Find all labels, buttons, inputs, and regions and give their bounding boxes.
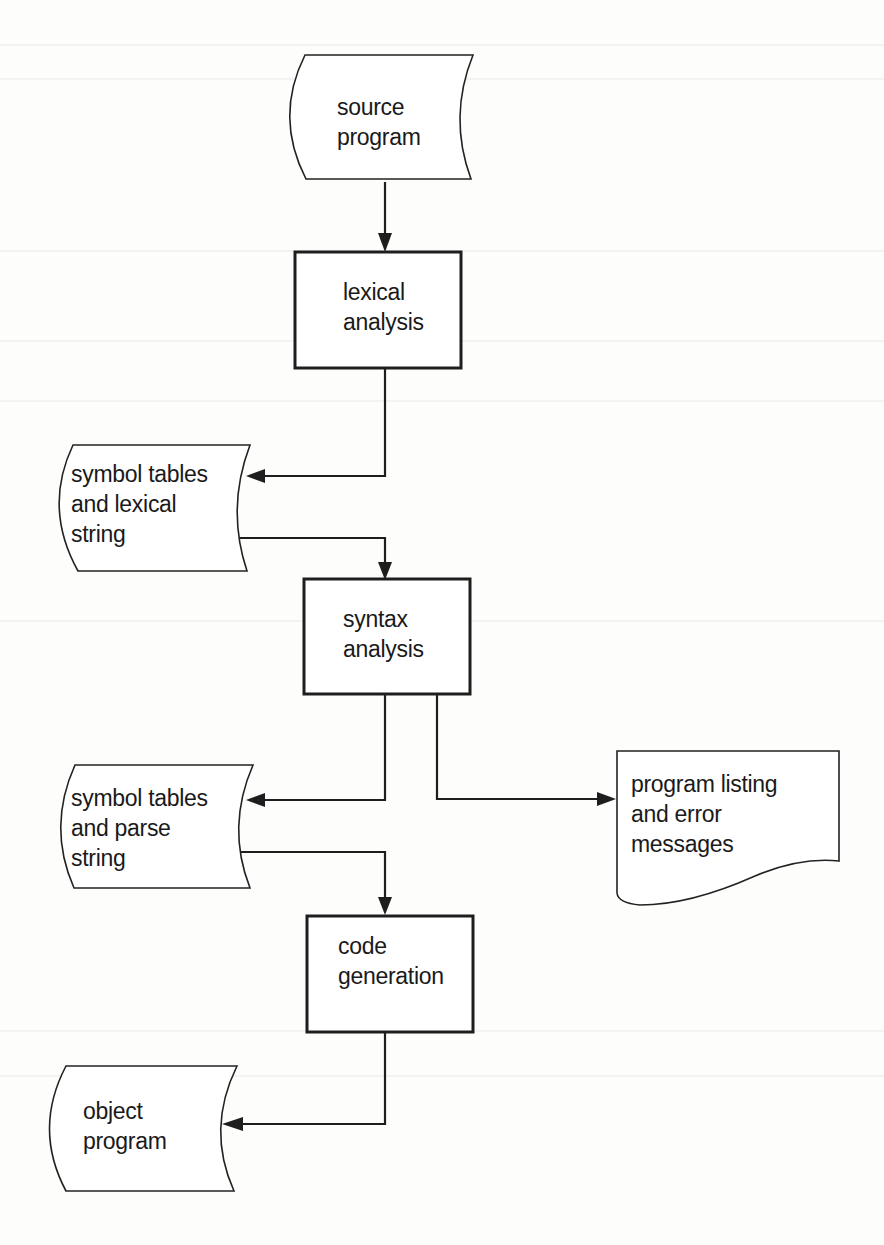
node-label: symbol tables — [71, 785, 208, 811]
node-code-generation: code generation — [307, 916, 473, 1032]
node-label: source — [337, 94, 404, 120]
node-program-listing: program listing and error messages — [617, 751, 839, 905]
node-symbol-tables-parse: symbol tables and parse string — [61, 765, 253, 888]
arrow-down-icon — [378, 233, 392, 252]
arrow-down-icon — [378, 897, 392, 915]
arrow-left-icon — [222, 1117, 243, 1131]
node-label: and error — [631, 801, 722, 827]
node-label: program — [337, 124, 421, 150]
node-label: string — [71, 521, 125, 547]
arrow-left-icon — [246, 793, 265, 807]
node-label: program — [83, 1128, 167, 1154]
node-label: code — [338, 933, 387, 959]
edge-syntax-to-symbol-tables-parse — [246, 694, 385, 807]
node-label: string — [71, 845, 125, 871]
edge-source-to-lexical — [378, 182, 392, 252]
compiler-flowchart: source program lexical analysis symbol t… — [0, 0, 884, 1245]
node-lexical-analysis: lexical analysis — [295, 252, 461, 368]
node-label: object — [83, 1098, 143, 1124]
node-label: lexical — [343, 279, 405, 305]
node-label: messages — [631, 831, 733, 857]
edge-lexical-to-symbol-tables-lexical — [246, 369, 385, 483]
edge-symbol-tables-lexical-to-syntax — [236, 538, 392, 580]
node-source-program: source program — [290, 55, 473, 179]
node-label: and lexical — [71, 491, 176, 517]
arrow-left-icon — [246, 469, 265, 483]
node-label: analysis — [343, 636, 424, 662]
node-syntax-analysis: syntax analysis — [304, 579, 470, 694]
node-symbol-tables-lexical: symbol tables and lexical string — [59, 445, 250, 571]
node-label: analysis — [343, 309, 424, 335]
edge-code-generation-to-object-program — [222, 1033, 385, 1131]
node-label: generation — [338, 963, 444, 989]
arrow-down-icon — [378, 562, 392, 580]
node-label: and parse — [71, 815, 171, 841]
edge-symbol-tables-parse-to-code-generation — [240, 852, 392, 915]
node-object-program: object program — [50, 1066, 238, 1191]
node-label: symbol tables — [71, 461, 208, 487]
arrow-right-icon — [597, 792, 616, 806]
node-label: program listing — [631, 771, 777, 797]
node-label: syntax — [343, 606, 408, 632]
edge-syntax-to-program-listing — [437, 694, 616, 806]
